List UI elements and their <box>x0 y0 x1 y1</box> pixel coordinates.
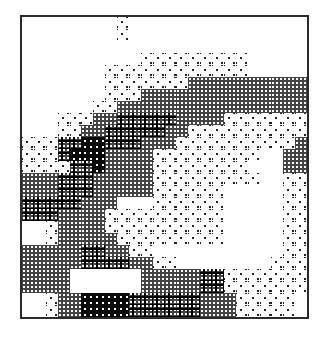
cell-light-dots <box>248 281 260 293</box>
cell-medium-checker <box>165 137 177 149</box>
cell-medium-checker <box>93 233 105 245</box>
cell-white <box>81 65 93 77</box>
cell-light-dots <box>153 257 165 269</box>
cell-light-dots <box>224 125 236 137</box>
cell-light-dots <box>295 269 307 281</box>
cell-light-dots <box>224 113 236 125</box>
cell-white <box>105 53 117 65</box>
cell-white <box>224 209 236 221</box>
cell-light-dots <box>188 197 200 209</box>
cell-light-dots <box>129 89 141 101</box>
cell-light-dots <box>283 209 295 221</box>
cell-light-dots <box>153 173 165 185</box>
cell-light-dots <box>200 137 212 149</box>
cell-light-dots <box>200 53 212 65</box>
cell-medium-checker <box>46 281 58 293</box>
cell-white <box>58 77 70 89</box>
cell-medium-checker <box>105 161 117 173</box>
cell-white <box>34 293 46 305</box>
cell-white <box>129 53 141 65</box>
cell-light-dots <box>117 77 129 89</box>
cell-light-dots <box>117 233 129 245</box>
cell-dark-checker-crosses <box>58 137 70 149</box>
cell-medium-checker <box>283 161 295 173</box>
cell-dark-checker-crosses <box>70 161 82 173</box>
cell-white <box>260 161 272 173</box>
cell-medium-checker <box>188 113 200 125</box>
cell-light-dots <box>224 173 236 185</box>
cell-white <box>34 233 46 245</box>
cell-white <box>260 221 272 233</box>
cell-white <box>248 221 260 233</box>
cell-dark-checker-crosses <box>129 305 141 317</box>
cell-light-dots <box>117 29 129 41</box>
cell-medium-checker <box>200 113 212 125</box>
cell-dark-checker-crosses <box>105 125 117 137</box>
cell-medium-checker <box>58 293 70 305</box>
cell-white <box>176 29 188 41</box>
cell-medium-checker <box>141 101 153 113</box>
cell-dark-checker-crosses <box>141 125 153 137</box>
cell-white <box>70 89 82 101</box>
cell-medium-checker <box>105 113 117 125</box>
cell-white <box>70 77 82 89</box>
cell-white <box>236 257 248 269</box>
cell-dark-checker-crosses <box>212 281 224 293</box>
cell-white <box>165 29 177 41</box>
cell-light-dots <box>46 233 58 245</box>
cell-dark-checker-crosses <box>141 113 153 125</box>
cell-dark-checker-crosses <box>70 173 82 185</box>
cell-light-dots <box>248 305 260 317</box>
cell-light-dots <box>46 221 58 233</box>
cell-medium-checker <box>141 161 153 173</box>
cell-white <box>248 209 260 221</box>
cell-light-dots <box>188 149 200 161</box>
cell-dark-checker-crosses <box>153 305 165 317</box>
cell-white <box>34 101 46 113</box>
cell-medium-checker <box>188 101 200 113</box>
cell-medium-checker <box>58 281 70 293</box>
cell-light-dots <box>188 221 200 233</box>
cell-dark-checker-crosses <box>22 197 34 209</box>
cell-dark-checker-crosses <box>188 293 200 305</box>
cell-medium-checker <box>176 281 188 293</box>
cell-light-dots <box>176 161 188 173</box>
cell-white <box>81 77 93 89</box>
cell-light-dots <box>248 113 260 125</box>
cell-white <box>248 41 260 53</box>
cell-dark-checker-crosses <box>58 185 70 197</box>
cell-light-dots <box>236 137 248 149</box>
cell-light-dots <box>271 281 283 293</box>
cell-medium-checker <box>81 221 93 233</box>
cell-medium-checker <box>271 89 283 101</box>
cell-medium-checker <box>58 233 70 245</box>
cell-light-dots <box>212 161 224 173</box>
cell-medium-checker <box>70 293 82 305</box>
cell-white <box>271 173 283 185</box>
cell-white <box>283 65 295 77</box>
cell-medium-checker <box>200 101 212 113</box>
cell-light-dots <box>188 233 200 245</box>
cell-medium-checker <box>117 245 129 257</box>
cell-medium-checker <box>34 185 46 197</box>
cell-light-dots <box>295 197 307 209</box>
cell-white <box>283 41 295 53</box>
cell-black <box>105 293 117 305</box>
cell-light-dots <box>200 221 212 233</box>
cell-white <box>260 17 272 29</box>
cell-light-dots <box>105 89 117 101</box>
cell-light-dots <box>271 293 283 305</box>
cell-white <box>248 233 260 245</box>
cell-light-dots <box>176 53 188 65</box>
cell-dark-checker-crosses <box>200 281 212 293</box>
cell-medium-checker <box>153 101 165 113</box>
cell-light-dots <box>200 173 212 185</box>
cell-white <box>188 17 200 29</box>
cell-medium-checker <box>200 89 212 101</box>
cell-white <box>153 41 165 53</box>
cell-medium-checker <box>46 269 58 281</box>
cell-light-dots <box>260 293 272 305</box>
cell-medium-checker <box>58 221 70 233</box>
cell-white <box>81 89 93 101</box>
cell-white <box>176 17 188 29</box>
